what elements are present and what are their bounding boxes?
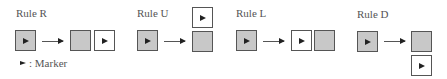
rule-l-result-filled-cell xyxy=(314,30,335,51)
rule-u-arrow-icon xyxy=(164,41,185,42)
legend-label: : Marker xyxy=(29,57,67,69)
marker-icon xyxy=(365,39,371,45)
marker-icon xyxy=(244,38,250,44)
rule-d-title: Rule D xyxy=(357,8,388,20)
marker-icon xyxy=(419,63,425,69)
rule-u-result-filled-cell xyxy=(192,31,213,52)
rule-d-result-marker-cell xyxy=(411,55,432,76)
rule-r-title: Rule R xyxy=(16,7,47,19)
rule-l-source-cell xyxy=(236,30,257,51)
rule-l-title: Rule L xyxy=(236,7,266,19)
marker-icon xyxy=(23,38,29,44)
marker-icon xyxy=(20,61,26,65)
marker-icon xyxy=(299,38,305,44)
rule-u-source-cell xyxy=(137,30,158,51)
rule-r-arrow-icon xyxy=(42,41,63,42)
rule-r-result-marker-cell xyxy=(94,30,115,51)
rule-u-title: Rule U xyxy=(137,7,168,19)
rule-u-result-marker-cell xyxy=(192,7,213,28)
legend: : Marker xyxy=(20,57,67,69)
rule-d-source-cell xyxy=(357,31,378,52)
rule-d-arrow-icon xyxy=(384,41,405,42)
rule-l-result-marker-cell xyxy=(291,30,312,51)
rule-l-arrow-icon xyxy=(263,41,284,42)
rule-d-result-filled-cell xyxy=(411,31,432,52)
rule-r-source-cell xyxy=(15,30,36,51)
marker-icon xyxy=(200,15,206,21)
rule-r-result-filled-cell xyxy=(70,30,91,51)
marker-icon xyxy=(102,38,108,44)
marker-icon xyxy=(145,38,151,44)
